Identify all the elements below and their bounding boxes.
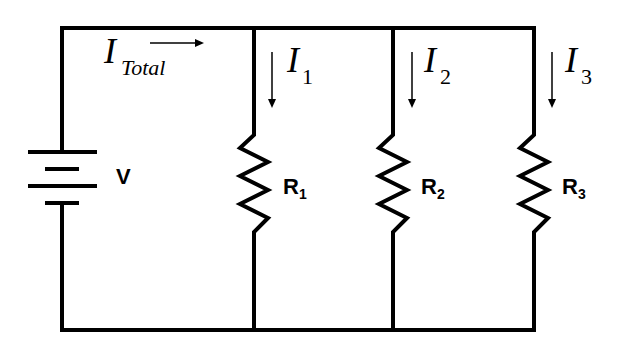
current-3-arrow-icon: [548, 52, 556, 108]
branch-1: I 1 R 1: [240, 40, 313, 258]
current-3-symbol: I: [564, 40, 579, 80]
resistor-3-icon: [520, 108, 548, 258]
battery-icon: [28, 152, 97, 203]
resistor-1-icon: [240, 108, 268, 258]
resistor-3-subscript: 3: [578, 186, 586, 202]
bottom-wire: [62, 205, 534, 330]
svg-text:I: I: [103, 31, 118, 71]
parallel-circuit-diagram: V I Total I 1 R 1 I 2 R 2: [0, 0, 621, 350]
voltage-label: V: [116, 164, 131, 189]
current-1-subscript: 1: [302, 64, 313, 89]
resistor-1-subscript: 1: [299, 186, 307, 202]
resistor-2-subscript: 2: [437, 186, 445, 202]
resistor-2-label: R: [421, 174, 437, 199]
resistor-2-icon: [379, 108, 407, 258]
branch-3: I 3 R 3: [520, 40, 592, 258]
current-2-symbol: I: [423, 40, 438, 80]
current-2-arrow-icon: [408, 52, 416, 108]
current-3-subscript: 3: [581, 64, 592, 89]
total-current-arrow-icon: [150, 39, 204, 47]
resistor-1-label: R: [283, 174, 299, 199]
svg-text:Total: Total: [121, 55, 165, 80]
current-1-symbol: I: [286, 40, 301, 80]
current-1-arrow-icon: [268, 52, 276, 108]
branch-2: I 2 R 2: [379, 40, 451, 258]
resistor-3-label: R: [562, 174, 578, 199]
total-current-label: I Total: [103, 31, 165, 80]
current-2-subscript: 2: [440, 64, 451, 89]
